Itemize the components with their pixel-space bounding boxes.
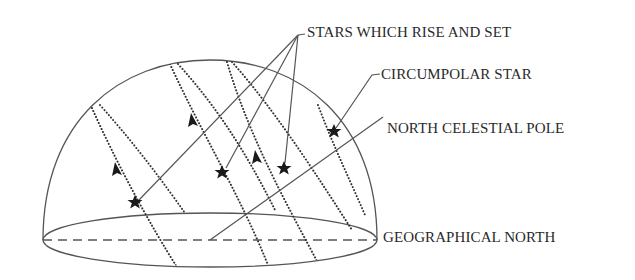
star-icon <box>128 195 143 209</box>
leader-rise-set-tick <box>298 34 305 35</box>
star-path-1 <box>92 108 177 267</box>
arrowhead-icon <box>188 113 198 127</box>
leader-circumpolar <box>336 74 380 128</box>
label-rise-and-set: STARS WHICH RISE AND SET <box>307 24 511 41</box>
star-path-5 <box>227 62 318 263</box>
leader-rise-set-2 <box>226 35 298 168</box>
label-circumpolar-star: CIRCUMPOLAR STAR <box>381 66 532 83</box>
arrowhead-icon <box>112 162 122 176</box>
star-path-4 <box>178 64 275 210</box>
star-icon <box>327 124 342 138</box>
label-north-celestial-pole: NORTH CELESTIAL POLE <box>387 120 564 137</box>
label-geographical-north: GEOGRAPHICAL NORTH <box>383 229 555 246</box>
star-path-3 <box>170 64 268 265</box>
leader-lines <box>139 34 383 240</box>
star-path-6 <box>232 62 352 230</box>
star-icon <box>277 161 292 175</box>
